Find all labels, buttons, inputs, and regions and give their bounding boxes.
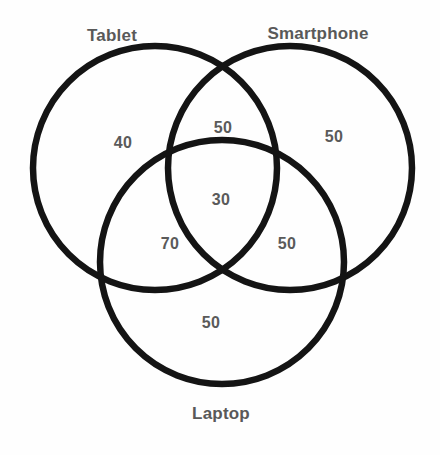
region-count-tablet-laptop: 70 — [161, 235, 179, 253]
region-count-smartphone-laptop: 50 — [278, 235, 296, 253]
region-count-tablet-only: 40 — [114, 134, 132, 152]
region-count-laptop-only: 50 — [202, 314, 220, 332]
region-count-smartphone-only: 50 — [325, 128, 343, 146]
set-label-laptop: Laptop — [192, 404, 250, 424]
venn-diagram: Tablet Smartphone Laptop 40 50 50 30 70 … — [0, 0, 440, 455]
circle-tablet — [33, 46, 277, 290]
set-label-tablet: Tablet — [87, 26, 137, 46]
circle-laptop — [100, 140, 344, 384]
circle-smartphone — [168, 46, 412, 290]
region-count-all-three: 30 — [212, 191, 230, 209]
venn-circles-group — [0, 0, 440, 455]
region-count-tablet-smartphone: 50 — [214, 119, 232, 137]
set-label-smartphone: Smartphone — [267, 24, 368, 44]
